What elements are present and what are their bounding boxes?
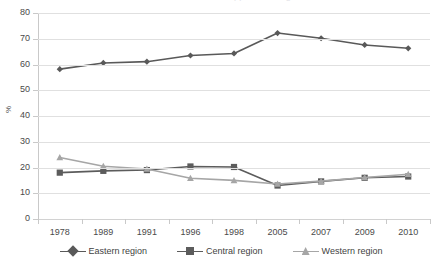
x-tick-mark bbox=[299, 219, 300, 224]
x-tick-mark bbox=[125, 219, 126, 224]
x-tick-label: 1991 bbox=[127, 227, 167, 237]
y-tick-mark bbox=[33, 116, 38, 117]
gridline bbox=[38, 142, 430, 143]
gridline bbox=[38, 168, 430, 169]
x-tick-label: 2007 bbox=[301, 227, 341, 237]
clipped-title-strip: clipped heading bbox=[0, 0, 442, 7]
y-tick-mark bbox=[33, 13, 38, 14]
y-tick-label: 0 bbox=[0, 214, 30, 223]
x-tick-label: 1989 bbox=[83, 227, 123, 237]
x-tick-label: 1996 bbox=[170, 227, 210, 237]
y-tick-mark bbox=[33, 142, 38, 143]
square-icon bbox=[186, 247, 194, 255]
legend-label-central: Central region bbox=[206, 246, 263, 256]
x-tick-label: 2010 bbox=[388, 227, 428, 237]
gridline bbox=[38, 90, 430, 91]
gridline bbox=[38, 13, 430, 14]
legend-item-eastern[interactable]: Eastern region bbox=[60, 246, 148, 256]
y-tick-label: 60 bbox=[0, 60, 30, 69]
x-tick-mark bbox=[82, 219, 83, 224]
legend-key-central bbox=[177, 246, 203, 256]
legend-item-western[interactable]: Western region bbox=[293, 246, 383, 256]
legend-key-western bbox=[293, 246, 319, 256]
y-tick-mark bbox=[33, 168, 38, 169]
y-tick-label: 70 bbox=[0, 34, 30, 43]
clipped-title-text: clipped heading bbox=[225, 0, 291, 1]
y-tick-label: 40 bbox=[0, 111, 30, 120]
y-tick-mark bbox=[33, 39, 38, 40]
gridline bbox=[38, 219, 430, 220]
diamond-icon bbox=[67, 245, 78, 256]
x-tick-label: 2005 bbox=[258, 227, 298, 237]
gridline bbox=[38, 116, 430, 117]
y-tick-mark bbox=[33, 65, 38, 66]
legend-label-western: Western region bbox=[322, 246, 383, 256]
x-tick-label: 2009 bbox=[345, 227, 385, 237]
y-tick-label: 30 bbox=[0, 137, 30, 146]
x-tick-mark bbox=[212, 219, 213, 224]
y-tick-mark bbox=[33, 90, 38, 91]
x-tick-mark bbox=[343, 219, 344, 224]
x-tick-mark bbox=[169, 219, 170, 224]
line-chart: clipped heading % Eastern region Central… bbox=[0, 0, 442, 269]
y-tick-label: 10 bbox=[0, 188, 30, 197]
y-tick-label: 80 bbox=[0, 8, 30, 17]
chart-legend: Eastern region Central region Western re… bbox=[0, 246, 442, 256]
x-tick-mark bbox=[38, 219, 39, 224]
x-tick-label: 1978 bbox=[40, 227, 80, 237]
x-tick-mark bbox=[430, 219, 431, 224]
gridline bbox=[38, 65, 430, 66]
y-tick-label: 20 bbox=[0, 163, 30, 172]
y-tick-label: 50 bbox=[0, 85, 30, 94]
x-tick-label: 1998 bbox=[214, 227, 254, 237]
gridline bbox=[38, 193, 430, 194]
legend-key-eastern bbox=[60, 246, 86, 256]
legend-item-central[interactable]: Central region bbox=[177, 246, 263, 256]
x-tick-mark bbox=[256, 219, 257, 224]
legend-label-eastern: Eastern region bbox=[89, 246, 148, 256]
gridline bbox=[38, 39, 430, 40]
y-tick-mark bbox=[33, 193, 38, 194]
x-tick-mark bbox=[386, 219, 387, 224]
